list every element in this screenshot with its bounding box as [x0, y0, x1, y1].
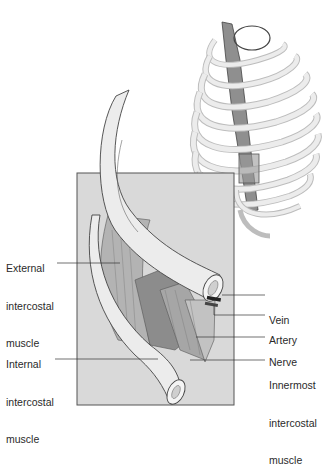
label-line: intercostal — [6, 396, 54, 409]
label-line: intercostal — [6, 300, 54, 313]
label-innermost-intercostal-muscle: Innermost intercostal muscle — [269, 354, 317, 468]
label-line: muscle — [6, 433, 54, 446]
label-internal-intercostal-muscle: Internal intercostal muscle — [6, 333, 54, 458]
label-line: External — [6, 262, 54, 275]
label-line: muscle — [269, 454, 317, 467]
label-line: Innermost — [269, 379, 317, 392]
label-line: Internal — [6, 358, 54, 371]
label-line: intercostal — [269, 417, 317, 430]
